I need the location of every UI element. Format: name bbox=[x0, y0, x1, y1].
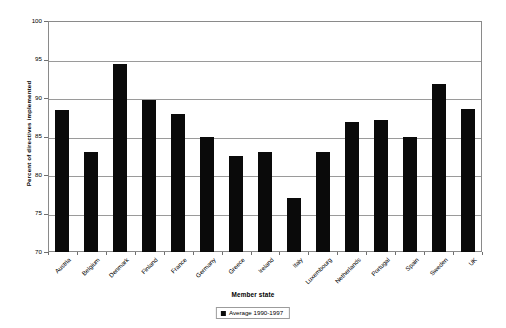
x-tick-mark bbox=[482, 252, 483, 255]
y-tick-label: 70 bbox=[35, 248, 42, 255]
x-tick-mark bbox=[424, 252, 425, 255]
x-axis-tick-labels: AustriaBelgiumDenmarkFinlandFranceGerman… bbox=[48, 256, 482, 296]
x-tick-mark bbox=[279, 252, 280, 255]
chart-legend: Average 1990-1997 bbox=[216, 307, 290, 319]
bar-greece bbox=[229, 156, 243, 252]
bar-spain bbox=[403, 137, 417, 253]
bar-netherlands bbox=[345, 122, 359, 252]
bar-ireland bbox=[258, 152, 272, 252]
bar-series-average-1990-1997 bbox=[48, 21, 482, 252]
y-tick-label: 100 bbox=[32, 17, 42, 24]
bar-italy bbox=[287, 198, 301, 252]
bar-denmark bbox=[113, 64, 127, 252]
legend-swatch-icon bbox=[221, 311, 226, 316]
x-tick-mark bbox=[366, 252, 367, 255]
y-tick-label: 80 bbox=[35, 171, 42, 178]
x-tick-mark bbox=[453, 252, 454, 255]
y-tick-label: 85 bbox=[35, 132, 42, 139]
x-tick-mark bbox=[106, 252, 107, 255]
y-axis-ticks: 100959085807570 bbox=[0, 21, 48, 252]
x-tick-mark bbox=[251, 252, 252, 255]
bar-luxembourg bbox=[316, 152, 330, 252]
x-tick-mark bbox=[222, 252, 223, 255]
x-axis-title: Member state bbox=[0, 291, 506, 298]
bar-finland bbox=[142, 100, 156, 252]
bar-sweden bbox=[432, 84, 446, 252]
x-tick-mark bbox=[337, 252, 338, 255]
x-tick-mark bbox=[193, 252, 194, 255]
x-tick-mark bbox=[48, 252, 49, 255]
bar-chart-figure: Percent of directives implemented 100959… bbox=[0, 0, 506, 328]
x-tick-mark bbox=[164, 252, 165, 255]
x-tick-mark bbox=[135, 252, 136, 255]
bar-germany bbox=[200, 137, 214, 253]
bar-belgium bbox=[84, 152, 98, 252]
bar-uk bbox=[461, 109, 475, 252]
y-tick-label: 75 bbox=[35, 209, 42, 216]
bar-portugal bbox=[374, 120, 388, 252]
bar-austria bbox=[55, 110, 69, 252]
y-tick-label: 90 bbox=[35, 94, 42, 101]
x-tick-mark bbox=[395, 252, 396, 255]
x-tick-mark bbox=[77, 252, 78, 255]
x-tick-mark bbox=[308, 252, 309, 255]
y-tick-label: 95 bbox=[35, 55, 42, 62]
legend-label: Average 1990-1997 bbox=[229, 310, 283, 316]
bar-france bbox=[171, 114, 185, 252]
